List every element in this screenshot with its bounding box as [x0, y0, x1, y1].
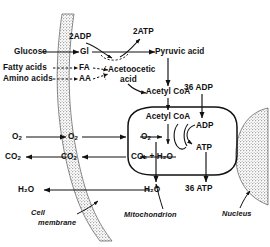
label-co2-cytosol: CO2: [61, 152, 77, 163]
label-pyruvic-acid: Pyruvic acid: [155, 47, 204, 56]
label-acetyl-coa-matrix: Acetyl CoA: [146, 112, 191, 121]
label-acetoacetic-acid-line1: Acetoocetic: [108, 65, 156, 74]
arrow-2adp-in: [86, 43, 112, 58]
label-2adp: 2ADP: [69, 32, 91, 41]
label-mitochondrion: Mitochondrion: [124, 210, 177, 219]
acetoacetic-brace: [104, 66, 106, 80]
label-co2-outside: CO2: [5, 152, 21, 163]
label-o2-cytosol: O2: [68, 132, 78, 143]
label-fatty-acids: Fatty acids: [3, 63, 47, 72]
label-cell-membrane-line1: Cell: [31, 208, 45, 217]
arrow-acetoacetic-to-acetylcoa: [128, 84, 146, 93]
label-nucleus: Nucleus: [222, 209, 251, 218]
label-amino-acids: Amino acids: [3, 74, 53, 83]
label-gl-intermediate: Gl: [80, 47, 89, 56]
arrow-fa-to-acetoacetic: [93, 68, 108, 70]
label-36-adp: 36 ADP: [184, 83, 213, 92]
arrow-aa-to-acetoacetic: [93, 74, 108, 79]
label-h2o-outside: H₂O: [18, 185, 34, 194]
diagram-canvas: Glucose Fatty acids Amino acids Gl FA AA…: [0, 0, 270, 247]
label-atp: ATP: [196, 143, 212, 152]
label-o2-outside: O2: [12, 132, 22, 143]
label-acetoacetic-acid-line2: acid: [120, 75, 137, 84]
label-2atp: 2ATP: [133, 27, 154, 36]
label-36-atp: 36 ATP: [185, 184, 212, 193]
label-co2-h2o-matrix: CO₂ + H₂O: [131, 152, 173, 161]
label-fa-intermediate: FA: [79, 63, 90, 72]
arrow-2atp-out: [120, 39, 140, 57]
leader-nucleus: [240, 191, 250, 208]
label-h2o-cytosol: H₂O: [144, 185, 160, 194]
label-cell-membrane-line2: membrane: [38, 218, 76, 227]
label-aa-intermediate: AA: [79, 74, 91, 83]
label-adp: ADP: [196, 121, 214, 130]
arrow-adp-to-atp: [187, 125, 195, 144]
nucleus-shape: [236, 108, 268, 205]
label-glucose: Glucose: [14, 47, 47, 56]
label-o2-matrix: O2: [141, 132, 151, 143]
